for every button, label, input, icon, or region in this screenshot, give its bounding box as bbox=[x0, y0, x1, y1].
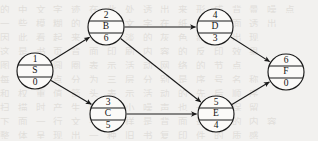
node-index: 6 bbox=[284, 55, 289, 65]
node-C[interactable]: 3C5 bbox=[90, 96, 126, 132]
node-index: 1 bbox=[33, 54, 38, 64]
node-weight: 5 bbox=[106, 120, 111, 130]
node-index: 3 bbox=[106, 97, 111, 107]
node-index: 5 bbox=[214, 97, 219, 107]
edge-S-to-C bbox=[51, 80, 91, 104]
node-label: B bbox=[103, 21, 109, 31]
node-D[interactable]: 4D3 bbox=[197, 9, 233, 45]
node-weight: 6 bbox=[104, 33, 109, 43]
node-weight: 0 bbox=[33, 77, 38, 87]
node-label: F bbox=[283, 66, 288, 76]
node-label: D bbox=[212, 21, 219, 31]
node-label: C bbox=[105, 108, 111, 118]
edge-S-to-B bbox=[51, 37, 90, 61]
node-label: E bbox=[213, 108, 219, 118]
edge-D-to-F bbox=[231, 37, 270, 62]
node-index: 4 bbox=[213, 10, 218, 20]
node-E[interactable]: 5E4 bbox=[198, 96, 234, 132]
node-label: S bbox=[32, 65, 37, 75]
node-F[interactable]: 6F0 bbox=[268, 54, 304, 90]
activity-network-graph: 1S02B63C54D35E46F0 bbox=[0, 0, 318, 141]
node-weight: 4 bbox=[214, 120, 219, 130]
diagram-page: 的 中 文 字 迹 在 此 处 透 出 来 形 成 背 景 噪 点一 些 模 糊… bbox=[0, 0, 318, 141]
node-B[interactable]: 2B6 bbox=[88, 9, 124, 45]
node-index: 2 bbox=[104, 10, 109, 20]
node-weight: 3 bbox=[213, 33, 218, 43]
node-S[interactable]: 1S0 bbox=[17, 53, 53, 89]
edge-B-to-E bbox=[121, 39, 201, 102]
edge-layer bbox=[51, 27, 270, 114]
node-weight: 0 bbox=[284, 78, 289, 88]
edge-E-to-F bbox=[232, 82, 269, 104]
